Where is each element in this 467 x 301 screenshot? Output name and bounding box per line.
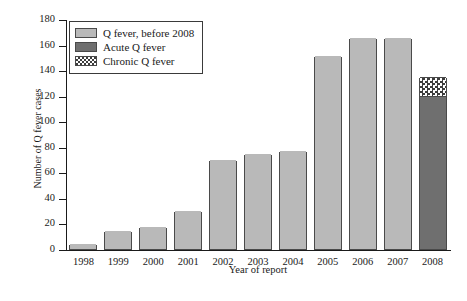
bar-segment-2000-q-fever-before-2008 [140,227,166,249]
y-tick-label-20: 20 [45,217,56,228]
bar-segment-2001-q-fever-before-2008 [175,211,201,249]
y-tick-label-40: 40 [45,192,56,203]
y-tick-40: 40 [59,199,66,200]
bar-2004 [279,152,307,250]
y-tick-label-0: 0 [50,243,55,254]
y-tick-label-100: 100 [39,115,55,126]
bar-segment-2006-q-fever-before-2008 [350,38,376,249]
legend-label-acute: Acute Q fever [103,41,165,53]
chart-legend: Q fever, before 2008 Acute Q fever Chron… [69,21,203,74]
y-axis-line [66,20,67,251]
bar-2005 [314,57,342,250]
bar-segment-2007-q-fever-before-2008 [385,38,411,249]
y-tick-100: 100 [59,122,66,123]
legend-label-chronic: Chronic Q fever [103,55,174,67]
y-tick-label-120: 120 [39,90,55,101]
bar-segment-2008-acute-q-fever [420,97,446,249]
q-fever-bar-chart: Number of Q fever cases 0204060801001201… [0,0,467,301]
y-tick-label-60: 60 [45,166,56,177]
bar-2000 [139,228,167,250]
bar-2006 [349,39,377,250]
bar-1998 [69,245,97,250]
y-tick-0: 0 [59,250,66,251]
y-tick-80: 80 [59,148,66,149]
y-tick-label-140: 140 [39,64,55,75]
bar-2001 [174,212,202,250]
legend-label-before-2008: Q fever, before 2008 [103,27,194,39]
bar-1999 [104,232,132,250]
y-tick-label-160: 160 [39,39,55,50]
y-tick-label-180: 180 [39,13,55,24]
bar-segment-2003-q-fever-before-2008 [245,154,271,249]
legend-item-chronic: Chronic Q fever [75,54,194,68]
bar-segment-2008-chronic-q-fever [420,77,446,97]
legend-item-acute: Acute Q fever [75,40,194,54]
y-tick-120: 120 [59,97,66,98]
bar-segment-1999-q-fever-before-2008 [105,231,131,249]
legend-swatch-before-2008 [75,28,97,38]
bar-2002 [209,161,237,250]
bar-segment-2004-q-fever-before-2008 [280,151,306,249]
y-tick-180: 180 [59,20,66,21]
y-tick-20: 20 [59,224,66,225]
x-axis-line [66,250,451,251]
legend-item-before-2008: Q fever, before 2008 [75,26,194,40]
x-axis-title: Year of report [66,264,450,275]
legend-swatch-acute [75,42,97,52]
y-tick-160: 160 [59,46,66,47]
y-tick-140: 140 [59,71,66,72]
y-tick-label-80: 80 [45,141,56,152]
bar-2007 [384,39,412,250]
bar-segment-2002-q-fever-before-2008 [210,160,236,249]
bar-segment-2005-q-fever-before-2008 [315,56,341,249]
bar-2008 [419,78,447,251]
legend-swatch-chronic [75,56,97,66]
bar-2003 [244,155,272,250]
y-tick-60: 60 [59,173,66,174]
bar-segment-1998-q-fever-before-2008 [70,244,96,249]
